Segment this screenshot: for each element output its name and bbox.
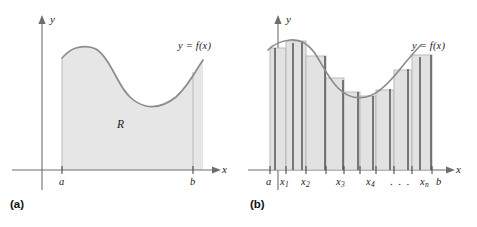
panel-a-tick-label-b: b xyxy=(190,176,195,187)
panel-b: y x y = f(x) a x1 x2 x3 x4 . . . xn b (b… xyxy=(240,0,477,227)
panel-a-curve-label: y = f(x) xyxy=(178,40,211,51)
panel-a-region-label: R xyxy=(117,118,124,130)
riemann-rectangle xyxy=(376,90,394,170)
riemann-rectangle xyxy=(286,41,306,170)
panel-b-graphic xyxy=(240,0,477,227)
x-axis-arrowhead xyxy=(446,166,455,173)
panel-a-caption: (a) xyxy=(10,198,24,210)
panel-b-caption: (b) xyxy=(250,198,265,210)
tick-label-subscript: 3 xyxy=(341,180,345,189)
riemann-rectangle xyxy=(412,55,432,170)
panel-a-y-axis-label: y xyxy=(50,13,55,25)
riemann-rectangle xyxy=(270,48,286,170)
panel-b-curve-label: y = f(x) xyxy=(412,40,445,51)
panel-b-tick-label-x2: x2 xyxy=(301,176,310,189)
panel-b-tick-label-x4: x4 xyxy=(366,176,375,189)
tick-label-subscript: 4 xyxy=(371,180,375,189)
tick-label-subscript: 2 xyxy=(306,180,310,189)
panel-a-tick-label-a: a xyxy=(59,176,64,187)
riemann-rectangle xyxy=(306,56,326,170)
panel-b-tick-label-ellipsis: . . . xyxy=(390,175,411,187)
panel-a-graphic xyxy=(0,0,240,227)
panel-b-tick-label-a: a xyxy=(266,176,271,187)
panel-b-y-axis-label: y xyxy=(286,13,291,25)
panel-b-tick-label-x1: x1 xyxy=(280,176,289,189)
y-axis-arrowhead xyxy=(38,15,45,24)
tick-label-subscript: n xyxy=(425,180,429,189)
panel-b-tick-label-x3: x3 xyxy=(336,176,345,189)
tick-label-subscript: 1 xyxy=(285,180,289,189)
panel-b-tick-label-b: b xyxy=(436,176,441,187)
panel-a: y x y = f(x) R a b (a) xyxy=(0,0,240,227)
riemann-rectangle xyxy=(394,70,412,170)
riemann-sum-figure: y x y = f(x) R a b (a) xyxy=(0,0,477,227)
panel-b-tick-label-xn: xn xyxy=(420,176,429,189)
y-axis-arrowhead xyxy=(274,15,281,24)
panel-a-x-axis-label: x xyxy=(222,163,227,175)
x-axis-arrowhead xyxy=(212,166,221,173)
region-under-curve-shape xyxy=(62,47,203,170)
panel-b-x-axis-label: x xyxy=(456,163,461,175)
